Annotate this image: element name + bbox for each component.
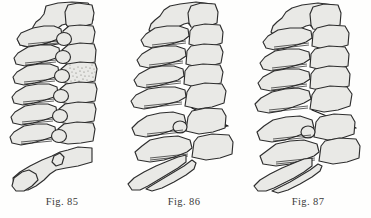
figure-page: Fig. 85: [0, 0, 371, 218]
figure-panel-87: Fig. 87: [246, 0, 370, 218]
figure-86-caption: Fig. 86: [122, 196, 246, 207]
figure-panel-85: Fig. 85: [0, 0, 124, 218]
figure-86-illustration: [122, 0, 246, 196]
figure-panel-86: Fig. 86: [122, 0, 246, 218]
figure-87-illustration: [246, 0, 370, 196]
figure-85-caption: Fig. 85: [0, 196, 124, 207]
figure-85-illustration: [0, 0, 124, 196]
figure-87-caption: Fig. 87: [246, 196, 370, 207]
